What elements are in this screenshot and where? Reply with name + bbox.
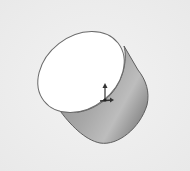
3d-viewport[interactable]: 3D cylinder model — [0, 0, 190, 171]
cylinder-model[interactable] — [0, 0, 190, 171]
